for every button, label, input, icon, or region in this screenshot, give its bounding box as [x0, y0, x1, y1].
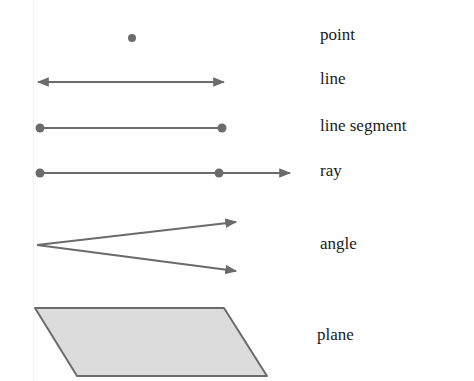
line-segment-figure: [36, 124, 227, 133]
geometry-figures: [0, 0, 474, 381]
label-line-segment: line segment: [320, 117, 406, 134]
point-figure: [128, 34, 136, 42]
plane-figure: [35, 308, 267, 376]
label-plane: plane: [317, 326, 354, 343]
angle-figure: [37, 222, 236, 271]
label-point: point: [320, 26, 355, 43]
ray-figure: [36, 169, 291, 178]
label-line: line: [320, 70, 346, 87]
label-angle: angle: [320, 235, 357, 252]
label-ray: ray: [320, 162, 342, 179]
